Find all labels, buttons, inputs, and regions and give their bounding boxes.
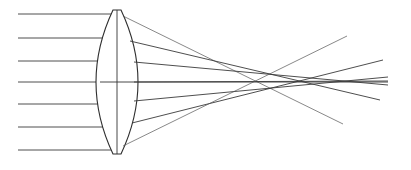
refracted-ray-5 bbox=[134, 77, 388, 101]
lens-ray-diagram bbox=[0, 0, 411, 170]
refracted-ray-7 bbox=[123, 36, 347, 146]
refracted-rays bbox=[123, 16, 388, 146]
refracted-ray-1 bbox=[123, 16, 343, 124]
